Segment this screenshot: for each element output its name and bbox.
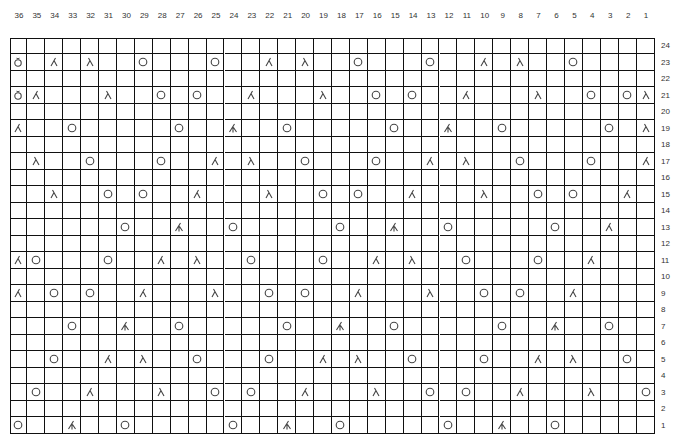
stitch-cell: [565, 87, 583, 104]
stitch-cell: [225, 120, 243, 137]
stitch-cell: [189, 104, 207, 121]
stitch-cell: [99, 120, 117, 137]
stitch-cell: [278, 120, 296, 137]
yarn-over-icon: [282, 123, 292, 133]
yarn-over-icon: [443, 222, 453, 232]
stitch-cell: [619, 87, 637, 104]
stitch-cell: [45, 137, 63, 154]
stitch-cell: [493, 137, 511, 154]
stitch-cell: [242, 269, 260, 286]
stitch-cell: [314, 351, 332, 368]
stitch-cell: [81, 351, 99, 368]
stitch-cell: [207, 153, 225, 170]
stitch-cell: [63, 54, 81, 71]
stitch-cell: [565, 269, 583, 286]
stitch-cell: [225, 236, 243, 253]
right-decrease-icon: [156, 255, 166, 265]
yarn-over-icon: [353, 189, 363, 199]
stitch-cell: [45, 104, 63, 121]
stitch-cell: [135, 54, 153, 71]
stitch-cell: [529, 285, 547, 302]
yarn-over-icon: [479, 288, 489, 298]
left-decrease-icon: [353, 354, 363, 364]
stitch-cell: [117, 38, 135, 55]
stitch-cell: [81, 236, 99, 253]
stitch-cell: [332, 335, 350, 352]
stitch-cell: [493, 186, 511, 203]
stitch-cell: [242, 170, 260, 187]
stitch-cell: [171, 170, 189, 187]
stitch-cell: [350, 38, 368, 55]
stitch-cell: [475, 269, 493, 286]
left-decrease-icon: [461, 156, 471, 166]
stitch-cell: [422, 54, 440, 71]
stitch-cell: [511, 203, 529, 220]
yarn-over-icon: [497, 321, 507, 331]
column-label: 27: [171, 11, 189, 20]
stitch-cell: [260, 219, 278, 236]
stitch-cell: [260, 38, 278, 55]
stitch-cell: [296, 137, 314, 154]
stitch-cell: [10, 104, 28, 121]
stitch-cell: [583, 186, 601, 203]
stitch-cell: [63, 236, 81, 253]
stitch-cell: [511, 302, 529, 319]
row-label: 13: [661, 223, 679, 232]
stitch-cell: [547, 384, 565, 401]
stitch-cell: [332, 302, 350, 319]
stitch-cell: [27, 285, 45, 302]
stitch-cell: [547, 219, 565, 236]
stitch-cell: [153, 318, 171, 335]
stitch-cell: [583, 137, 601, 154]
column-label: 20: [297, 11, 315, 20]
stitch-cell: [27, 219, 45, 236]
stitch-cell: [583, 417, 601, 434]
stitch-cell: [332, 170, 350, 187]
stitch-cell: [547, 351, 565, 368]
stitch-cell: [511, 120, 529, 137]
stitch-cell: [457, 87, 475, 104]
column-label: 17: [350, 11, 368, 20]
stitch-cell: [511, 417, 529, 434]
column-label: 25: [207, 11, 225, 20]
stitch-cell: [619, 38, 637, 55]
stitch-cell: [189, 137, 207, 154]
column-label: 15: [386, 11, 404, 20]
stitch-cell: [242, 219, 260, 236]
stitch-cell: [189, 219, 207, 236]
stitch-cell: [314, 170, 332, 187]
stitch-cell: [225, 38, 243, 55]
yarn-over-icon: [210, 387, 220, 397]
stitch-cell: [368, 351, 386, 368]
stitch-cell: [63, 104, 81, 121]
stitch-cell: [27, 302, 45, 319]
right-decrease-icon: [568, 288, 578, 298]
stitch-cell: [619, 384, 637, 401]
stitch-cell: [529, 269, 547, 286]
stitch-cell: [368, 401, 386, 418]
stitch-cell: [404, 54, 422, 71]
stitch-cell: [583, 153, 601, 170]
stitch-cell: [350, 318, 368, 335]
stitch-cell: [207, 302, 225, 319]
stitch-cell: [207, 285, 225, 302]
double-decrease-icon: [389, 222, 399, 232]
stitch-cell: [81, 417, 99, 434]
stitch-cell: [565, 302, 583, 319]
right-decrease-icon: [13, 288, 23, 298]
stitch-cell: [637, 252, 655, 269]
stitch-cell: [457, 285, 475, 302]
stitch-cell: [565, 153, 583, 170]
stitch-cell: [583, 401, 601, 418]
stitch-cell: [117, 417, 135, 434]
stitch-cell: [225, 335, 243, 352]
yarn-over-icon: [282, 321, 292, 331]
stitch-cell: [350, 236, 368, 253]
stitch-cell: [475, 219, 493, 236]
stitch-cell: [314, 71, 332, 88]
stitch-cell: [171, 219, 189, 236]
stitch-cell: [457, 368, 475, 385]
yarn-over-icon: [156, 90, 166, 100]
stitch-cell: [117, 153, 135, 170]
stitch-cell: [565, 104, 583, 121]
